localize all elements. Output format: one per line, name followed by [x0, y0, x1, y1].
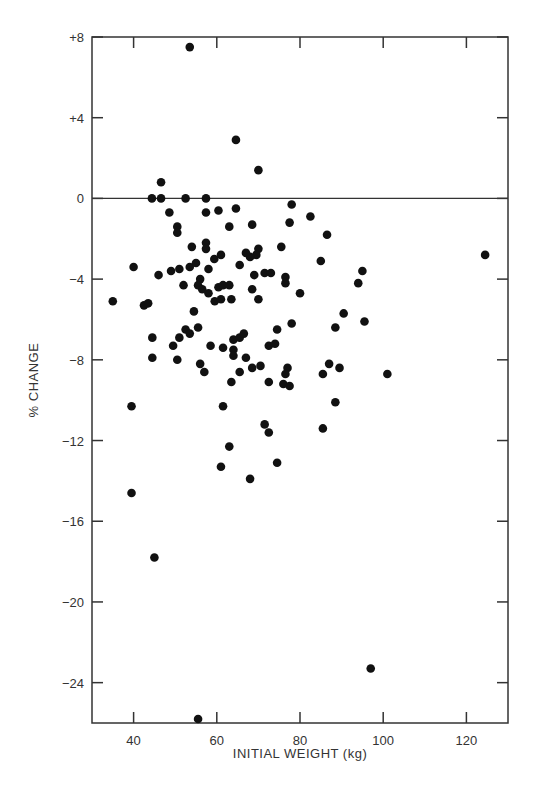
data-point: [306, 212, 315, 221]
data-point: [383, 370, 392, 379]
data-point: [144, 299, 153, 308]
data-point: [285, 382, 294, 391]
data-point: [190, 307, 199, 316]
data-point: [217, 462, 226, 471]
data-point: [235, 368, 244, 377]
data-point: [109, 297, 118, 306]
data-point: [260, 420, 269, 429]
data-point: [273, 325, 282, 334]
data-point: [325, 360, 334, 369]
x-tick-label: 100: [372, 733, 394, 748]
y-tick-label: +8: [69, 30, 84, 45]
data-point: [360, 317, 369, 326]
data-point: [232, 204, 241, 213]
data-point: [185, 43, 194, 52]
y-tick-label: −12: [62, 434, 84, 449]
data-point: [127, 489, 136, 498]
data-point: [248, 364, 257, 373]
data-point: [339, 309, 348, 318]
data-point: [129, 263, 138, 272]
data-point: [167, 267, 176, 276]
data-point: [185, 329, 194, 338]
data-point: [165, 208, 174, 217]
data-point: [296, 289, 305, 298]
data-point: [287, 200, 296, 209]
y-axis-ticks: +8+40−4−8−12−16−20−24: [62, 30, 508, 691]
data-point: [217, 251, 226, 260]
data-point: [227, 295, 236, 304]
x-axis-ticks: 406080100120: [126, 37, 477, 748]
data-point: [150, 553, 159, 562]
y-tick-label: −24: [62, 676, 84, 691]
data-point: [157, 194, 166, 203]
data-point: [194, 323, 203, 332]
data-point: [188, 243, 197, 252]
data-point: [265, 378, 274, 387]
data-point: [219, 402, 228, 411]
data-point: [173, 356, 182, 365]
data-point: [173, 228, 182, 237]
data-point: [192, 259, 201, 268]
data-point: [267, 269, 276, 278]
data-point: [179, 281, 188, 290]
data-point: [354, 279, 363, 288]
data-point: [256, 362, 265, 371]
data-point: [175, 265, 184, 274]
data-point: [265, 428, 274, 437]
data-point: [204, 289, 213, 298]
data-point: [481, 251, 490, 260]
data-point: [331, 398, 340, 407]
data-point: [277, 243, 286, 252]
x-axis-title: INITIAL WEIGHT (kg): [233, 746, 367, 761]
data-point: [175, 333, 184, 342]
data-point: [229, 351, 238, 360]
data-point: [240, 329, 249, 338]
x-tick-label: 120: [456, 733, 478, 748]
y-tick-label: 0: [77, 191, 84, 206]
plot-frame: [92, 37, 508, 723]
data-point: [287, 319, 296, 328]
data-point: [248, 220, 257, 229]
data-point: [217, 295, 226, 304]
data-point: [154, 271, 163, 280]
y-tick-label: −4: [69, 272, 84, 287]
data-point: [157, 178, 166, 187]
data-point: [232, 136, 241, 145]
data-point: [200, 368, 209, 377]
data-point: [335, 364, 344, 373]
y-tick-label: −8: [69, 353, 84, 368]
data-point: [331, 323, 340, 332]
data-point: [194, 715, 203, 724]
data-point: [181, 194, 190, 203]
data-point: [148, 194, 157, 203]
data-point: [254, 166, 263, 175]
y-tick-label: +4: [69, 111, 84, 126]
data-point: [202, 194, 211, 203]
data-point: [148, 333, 157, 342]
data-point: [204, 265, 213, 274]
data-point: [273, 458, 282, 467]
data-point: [206, 341, 215, 350]
data-point: [225, 222, 234, 231]
data-point: [319, 424, 328, 433]
data-point: [271, 339, 280, 348]
data-point: [148, 354, 157, 363]
data-point: [250, 271, 259, 280]
data-point: [281, 279, 290, 288]
data-point: [254, 295, 263, 304]
data-point: [202, 245, 211, 254]
data-point: [242, 354, 251, 363]
y-tick-label: −16: [62, 514, 84, 529]
scatter-chart: +8+40−4−8−12−16−20−24 406080100120 INITI…: [0, 0, 538, 788]
data-point: [319, 370, 328, 379]
data-point: [281, 370, 290, 379]
data-point: [225, 281, 234, 290]
data-point: [323, 230, 332, 239]
data-point: [196, 360, 205, 369]
data-point: [219, 343, 228, 352]
data-point: [235, 261, 244, 270]
data-point: [227, 378, 236, 387]
data-point: [248, 285, 257, 294]
y-axis-title: % CHANGE: [26, 343, 41, 418]
data-point: [225, 442, 234, 451]
